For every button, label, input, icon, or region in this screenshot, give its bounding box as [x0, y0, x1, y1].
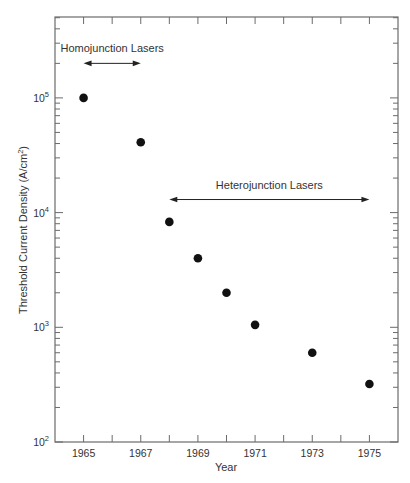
data-point — [365, 380, 374, 389]
y-tick-label-base: 10 — [33, 321, 45, 333]
annotation-heterojunction: Heterojunction Lasers — [169, 179, 369, 203]
x-tick-label: 1973 — [301, 447, 325, 459]
plot-frame — [55, 17, 398, 442]
y-tick-label-base: 10 — [33, 436, 45, 448]
y-axis-title-main: Threshold Current Density (A/cm — [17, 154, 29, 314]
arrowhead-left-icon — [169, 197, 177, 203]
annotation-label: Homojunction Lasers — [60, 42, 164, 54]
x-tick-label: 1969 — [186, 447, 210, 459]
arrowhead-left-icon — [84, 61, 92, 67]
data-points — [79, 94, 373, 389]
y-tick-label: 103 — [33, 319, 49, 333]
x-axis-title: Year — [215, 461, 238, 473]
threshold-current-chart: 196519671969197119731975 102103104105 Ho… — [0, 0, 410, 483]
plot-axes — [55, 17, 398, 442]
y-tick-label-base: 10 — [33, 92, 45, 104]
x-axis-ticks: 196519671969197119731975 — [72, 17, 381, 459]
y-tick-label-exp: 4 — [45, 205, 49, 214]
data-point — [251, 321, 260, 330]
y-tick-label-exp: 2 — [45, 434, 49, 443]
data-point — [222, 288, 231, 297]
y-axis-title-tail: ) — [17, 146, 29, 150]
annotations: Homojunction LasersHeterojunction Lasers — [60, 42, 369, 202]
x-tick-label: 1967 — [129, 447, 153, 459]
arrowhead-right-icon — [361, 197, 369, 203]
annotation-label: Heterojunction Lasers — [216, 179, 324, 191]
data-point — [165, 218, 174, 227]
annotation-homojunction: Homojunction Lasers — [60, 42, 164, 66]
data-point — [308, 348, 317, 357]
x-tick-label: 1975 — [358, 447, 382, 459]
y-axis-ticks: 102103104105 — [33, 18, 398, 448]
y-tick-label-exp: 3 — [45, 319, 49, 328]
data-point — [79, 94, 88, 103]
y-tick-label: 102 — [33, 434, 49, 448]
x-tick-label: 1965 — [72, 447, 96, 459]
y-tick-label-exp: 5 — [45, 90, 49, 99]
data-point — [136, 138, 145, 147]
x-tick-label: 1971 — [243, 447, 267, 459]
y-axis-title: Threshold Current Density (A/cm2) — [16, 146, 29, 314]
y-tick-label: 104 — [33, 205, 49, 219]
data-point — [194, 254, 203, 263]
y-tick-label: 105 — [33, 90, 49, 104]
y-tick-label-base: 10 — [33, 207, 45, 219]
arrowhead-right-icon — [133, 61, 141, 67]
